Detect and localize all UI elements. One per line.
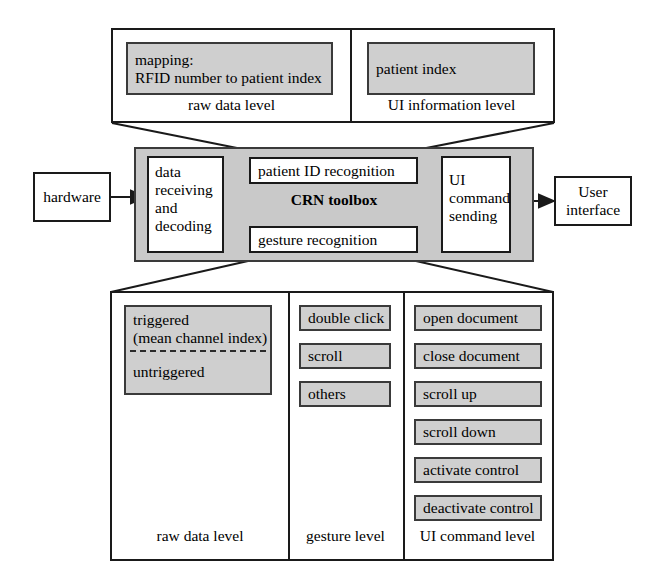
bottom-item-close-document[interactable]: close document: [414, 343, 542, 369]
bottom-funnel-connector: [111, 261, 553, 292]
gesture-recognition-label: gesture recognition: [258, 231, 377, 249]
bottom-item-activate-control[interactable]: activate control: [414, 457, 542, 483]
ui-command-sending-label: UI command sending: [449, 171, 510, 225]
hardware-label: hardware: [43, 188, 101, 206]
bottom-item-scroll[interactable]: scroll: [299, 343, 391, 369]
patient-id-recognition-block[interactable]: patient ID recognition: [249, 157, 418, 184]
data-receiving-label: data receiving and decoding: [155, 163, 213, 235]
bottom-item-others-label: others: [308, 385, 346, 403]
gesture-recognition-block[interactable]: gesture recognition: [249, 226, 418, 253]
user-interface-box[interactable]: User interface: [554, 176, 632, 226]
user-interface-label: User interface: [566, 183, 620, 219]
bottom-item-others[interactable]: others: [299, 381, 391, 407]
bottom-item-triggered-label: triggered (mean channel index): [133, 311, 267, 346]
top-item-patient-index-label: patient index: [376, 60, 457, 78]
bottom-panel-divider-1: [288, 293, 290, 559]
ui-command-sending-block[interactable]: UI command sending: [441, 156, 511, 253]
bottom-item-untriggered[interactable]: untriggered: [133, 363, 204, 381]
bottom-item-close-document-label: close document: [423, 347, 520, 365]
bottom-item-open-document-label: open document: [423, 309, 518, 327]
bottom-item-activate-control-label: activate control: [423, 461, 519, 479]
diagram-canvas: mapping: RFID number to patient index ra…: [0, 0, 658, 587]
bottom-item-scroll-up-label: scroll up: [423, 385, 477, 403]
bottom-item-deactivate-control-label: deactivate control: [423, 499, 534, 517]
bottom-item-open-document[interactable]: open document: [414, 305, 542, 331]
top-level-label-ui-information: UI information level: [350, 96, 553, 114]
top-item-rfid-mapping-label: mapping: RFID number to patient index: [135, 51, 322, 87]
bottom-level-label-raw-data: raw data level: [112, 527, 288, 545]
top-item-rfid-mapping[interactable]: mapping: RFID number to patient index: [126, 42, 333, 95]
bottom-item-scroll-up[interactable]: scroll up: [414, 381, 542, 407]
bottom-item-double-click-label: double click: [308, 309, 384, 327]
bottom-item-untriggered-label: untriggered: [133, 363, 204, 380]
bottom-level-label-gesture: gesture level: [288, 527, 403, 545]
top-level-label-raw-data: raw data level: [113, 96, 350, 114]
data-receiving-block[interactable]: data receiving and decoding: [147, 156, 224, 253]
bottom-item-double-click[interactable]: double click: [299, 305, 391, 331]
bottom-item-deactivate-control[interactable]: deactivate control: [414, 495, 542, 521]
bottom-panel-divider-2: [403, 293, 405, 559]
bottom-raw-data-group: triggered (mean channel index) untrigger…: [124, 305, 272, 395]
bottom-item-scroll-label: scroll: [308, 347, 342, 365]
trigger-separator: [130, 350, 266, 352]
bottom-item-scroll-down[interactable]: scroll down: [414, 419, 542, 445]
hardware-box[interactable]: hardware: [33, 172, 111, 222]
bottom-item-triggered[interactable]: triggered (mean channel index): [133, 311, 267, 347]
top-item-patient-index[interactable]: patient index: [367, 42, 535, 95]
bottom-level-label-ui-command: UI command level: [403, 527, 552, 545]
bottom-item-scroll-down-label: scroll down: [423, 423, 496, 441]
bottom-panel: triggered (mean channel index) untrigger…: [110, 291, 554, 561]
patient-id-recognition-label: patient ID recognition: [258, 162, 395, 180]
top-funnel-connector: [112, 123, 554, 150]
top-panel: mapping: RFID number to patient index ra…: [111, 28, 555, 123]
